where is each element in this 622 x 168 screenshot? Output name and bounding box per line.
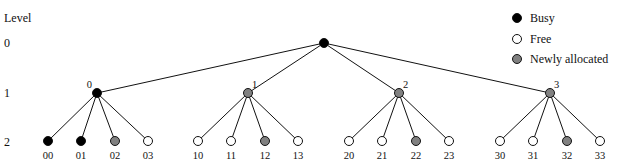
edge-0-to-00 (48, 93, 97, 141)
leaf-label-13: 13 (293, 150, 304, 161)
legend-label-busy: Busy (530, 11, 555, 25)
leaf-node-10 (194, 137, 203, 146)
leaf-node-12 (261, 137, 270, 146)
edge-root-to-1 (248, 43, 324, 93)
leaf-label-33: 33 (595, 150, 606, 161)
leaf-node-03 (144, 137, 153, 146)
leaf-label-21: 21 (377, 150, 388, 161)
legend: Busy Free Newly allocated (513, 11, 609, 66)
level1-node-0 (93, 89, 102, 98)
edge-1-to-12 (248, 93, 265, 141)
level-heading: Level (4, 11, 32, 25)
leaf-node-22 (412, 137, 421, 146)
leaf-node-32 (563, 137, 572, 146)
leaf-label-03: 03 (143, 150, 154, 161)
edge-0-to-02 (97, 93, 115, 141)
legend-label-free: Free (530, 32, 551, 46)
edge-2-to-21 (382, 93, 399, 141)
leaf-node-31 (529, 137, 538, 146)
level1-label-2: 2 (403, 79, 408, 90)
busy-node-icon (513, 14, 522, 23)
newly-allocated-node-icon (513, 55, 522, 64)
edge-0-to-03 (97, 93, 148, 141)
legend-item-free: Free (513, 32, 552, 46)
leaf-label-32: 32 (562, 150, 573, 161)
leaf-node-02 (111, 137, 120, 146)
legend-label-newly-allocated: Newly allocated (530, 52, 608, 66)
leaf-label-01: 01 (76, 150, 87, 161)
leaf-node-13 (294, 137, 303, 146)
edge-2-to-20 (349, 93, 399, 141)
legend-item-busy: Busy (513, 11, 555, 25)
leaf-label-31: 31 (528, 150, 539, 161)
edge-1-to-11 (231, 93, 248, 141)
leaf-label-12: 12 (260, 150, 271, 161)
leaf-node-00 (44, 137, 53, 146)
leaf-label-11: 11 (226, 150, 236, 161)
leaf-node-21 (378, 137, 387, 146)
edge-3-to-30 (500, 93, 550, 141)
level1-label-1: 1 (252, 79, 257, 90)
level-2-label: 2 (4, 135, 10, 149)
root-node (320, 39, 329, 48)
edge-3-to-32 (550, 93, 567, 141)
edge-root-to-3 (324, 43, 550, 93)
level1-label-0: 0 (87, 79, 92, 90)
level-1-label: 1 (4, 86, 10, 100)
leaf-node-30 (496, 137, 505, 146)
edge-root-to-2 (324, 43, 399, 93)
edge-root-to-0 (97, 43, 324, 93)
edge-3-to-31 (533, 93, 550, 141)
leaf-label-23: 23 (444, 150, 455, 161)
edge-3-to-33 (550, 93, 600, 141)
level-0-label: 0 (4, 36, 10, 50)
allocation-tree-diagram: Level 0 1 2 Busy Free Newly allocated 00… (0, 0, 622, 168)
leaf-label-10: 10 (193, 150, 204, 161)
leaf-node-11 (227, 137, 236, 146)
leaf-label-00: 00 (43, 150, 54, 161)
tree-nodes (44, 39, 605, 146)
leaf-label-30: 30 (495, 150, 506, 161)
leaf-label-20: 20 (344, 150, 355, 161)
leaf-label-02: 02 (110, 150, 121, 161)
edge-1-to-10 (198, 93, 248, 141)
level1-label-3: 3 (554, 79, 559, 90)
edge-2-to-23 (399, 93, 449, 141)
leaf-node-33 (596, 137, 605, 146)
level-axis: Level 0 1 2 (4, 11, 32, 149)
leaf-node-20 (345, 137, 354, 146)
edge-1-to-13 (248, 93, 298, 141)
leaf-node-23 (445, 137, 454, 146)
legend-item-newly-allocated: Newly allocated (513, 52, 609, 66)
tree-labels: 000102030101112131202122232303132333 (43, 79, 606, 161)
edge-2-to-22 (399, 93, 416, 141)
leaf-label-22: 22 (411, 150, 422, 161)
free-node-icon (513, 35, 522, 44)
leaf-node-01 (77, 137, 86, 146)
